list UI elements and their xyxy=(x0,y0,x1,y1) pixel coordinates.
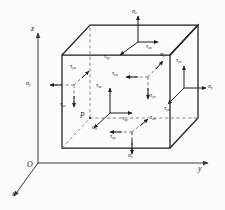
point-p-label: P xyxy=(80,112,85,120)
tau-xy-center-label: τxy xyxy=(122,115,128,122)
sigma-x-front-label: σx xyxy=(92,124,97,131)
cube-front-face xyxy=(62,55,170,148)
x-axis xyxy=(14,163,38,196)
tau-yx-right-sub: yx xyxy=(166,107,170,112)
sigma-y-left-sub: y xyxy=(29,82,31,87)
tau-yx-right-label: τyx xyxy=(164,105,170,112)
tau-yz-back-sub: yz xyxy=(152,94,156,99)
sigma-y-right-sub: y xyxy=(211,85,213,90)
tau-yx-back-label: τyx xyxy=(112,70,118,77)
left-face-stresses xyxy=(50,71,89,107)
figure-canvas: z y x O P σz τzy τzx σz τzx τzy σy τyz τ… xyxy=(0,0,225,210)
right-face-stresses xyxy=(168,66,206,104)
sigma-y-back-sub: y xyxy=(163,53,165,58)
cube-solid-edges xyxy=(62,25,198,148)
tau-yx-left-label: τyx xyxy=(70,63,76,70)
tau-zx-bottom-sub: zx xyxy=(152,116,156,121)
y-axis-label: y xyxy=(198,165,202,173)
tau-zx-bottom-arrow xyxy=(140,119,148,126)
tau-yz-back-label: τyz xyxy=(150,92,156,99)
tau-zy-bottom-sub: zy xyxy=(112,135,116,140)
tau-yz-left-label: τyz xyxy=(60,101,66,108)
tau-zx-bottom-label: τzx xyxy=(150,114,156,121)
tau-yx-left-sub: yx xyxy=(72,65,76,70)
sigma-z-bottom-sub: z xyxy=(131,154,133,159)
tau-zy-bottom-label: τzy xyxy=(110,133,116,140)
cube-hidden-edges xyxy=(62,25,198,148)
origin-label: O xyxy=(27,161,33,169)
tau-yx-back-sub: yx xyxy=(114,72,118,77)
x-axis-label: x xyxy=(12,190,16,198)
sigma-z-bottom-label: σz xyxy=(128,152,133,159)
tau-yx-left-arrow xyxy=(82,71,89,78)
tau-xz-center-sub: xz xyxy=(98,84,102,89)
cube-top-face xyxy=(62,25,198,55)
back-face-stresses xyxy=(126,61,163,99)
tau-xy-center-sub: xy xyxy=(124,117,128,122)
tau-xz-center-label: τxz xyxy=(96,82,102,89)
z-axis-label: z xyxy=(31,25,34,33)
tau-zx-top-label: τzx xyxy=(146,43,152,50)
sigma-y-back-label: σy xyxy=(160,51,165,58)
point-p-marker xyxy=(89,117,91,119)
sigma-z-top-sub: z xyxy=(135,10,137,15)
tau-yz-right-sub: yz xyxy=(178,59,182,64)
sigma-y-back-arrow xyxy=(156,61,163,69)
sigma-y-left-label: σy xyxy=(26,80,31,87)
tau-zx-top-sub: zx xyxy=(148,45,152,50)
tau-zy-top-arrow xyxy=(120,42,138,55)
tau-yz-right-label: τyz xyxy=(176,57,182,64)
tau-yz-left-sub: yz xyxy=(62,103,66,108)
sigma-y-right-label: σy xyxy=(208,83,213,90)
tau-zy-top-sub: zy xyxy=(106,55,110,60)
top-face-stresses xyxy=(120,16,158,55)
sigma-x-front-sub: x xyxy=(95,126,97,131)
tau-zy-top-label: τzy xyxy=(104,53,110,60)
sigma-z-top-label: σz xyxy=(132,8,137,15)
cube-hidden-bottom-back xyxy=(62,118,198,148)
